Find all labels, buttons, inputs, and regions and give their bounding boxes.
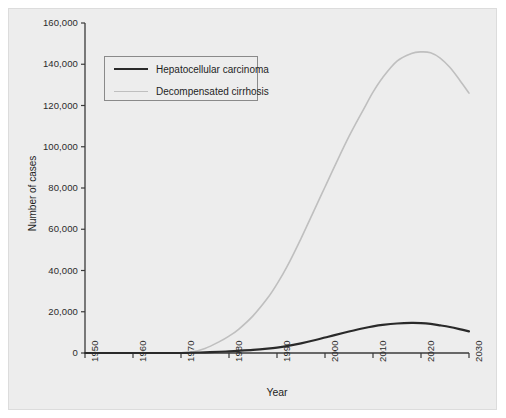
- legend-color-swatch: [114, 68, 148, 70]
- y-axis-tick-label: 60,000: [14, 224, 78, 234]
- y-axis-tick-label: 160,000: [14, 18, 78, 28]
- x-axis-tick-label: 1950: [89, 340, 100, 362]
- y-axis-tick-label: 0: [14, 348, 78, 358]
- x-axis-tick-label: 2010: [377, 340, 388, 362]
- chart-figure: 020,00040,00060,00080,000100,000120,0001…: [0, 0, 506, 418]
- x-axis-tick-label: 1960: [137, 340, 148, 362]
- x-axis-tick-label: 1980: [233, 340, 244, 362]
- y-axis-tick-label: 140,000: [14, 59, 78, 69]
- y-axis-tick-label: 100,000: [14, 142, 78, 152]
- legend-color-swatch: [114, 91, 148, 92]
- y-axis-tick-label: 120,000: [14, 101, 78, 111]
- x-axis-tick-label: 2030: [473, 340, 484, 362]
- y-axis-tick-label: 20,000: [14, 307, 78, 317]
- y-axis-tick-label: 40,000: [14, 266, 78, 276]
- y-axis-tick-label: 80,000: [14, 183, 78, 193]
- x-axis-tick-label: 1970: [185, 340, 196, 362]
- legend-item: Decompensated cirrhosis: [105, 80, 259, 102]
- legend-item-label: Decompensated cirrhosis: [156, 86, 269, 97]
- x-axis-tick-label: 2000: [329, 340, 340, 362]
- legend-item: Hepatocellular carcinoma: [105, 58, 259, 80]
- x-axis-tick-label: 2020: [425, 340, 436, 362]
- x-axis-title: Year: [85, 386, 469, 398]
- chart-legend: Hepatocellular carcinomaDecompensated ci…: [104, 56, 258, 101]
- legend-item-label: Hepatocellular carcinoma: [156, 64, 269, 75]
- x-axis-tick-label: 1990: [281, 340, 292, 362]
- y-axis-title: Number of cases: [27, 134, 38, 254]
